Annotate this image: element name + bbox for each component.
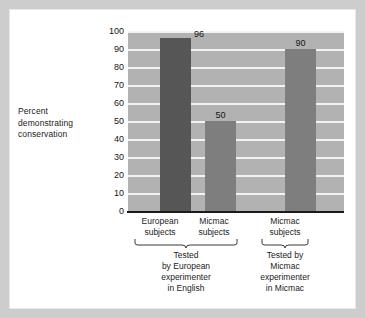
- bar-value-label-96: 96: [194, 29, 204, 39]
- category-label-line-2: subjects: [132, 227, 188, 238]
- y-tick-label-80: 80: [98, 62, 124, 72]
- figure-panel: Percent demonstrating conservation 100 9…: [10, 10, 355, 308]
- y-tick-label-50: 50: [98, 116, 124, 126]
- bar-value-label-50: 50: [215, 110, 225, 120]
- group-caption-line-2: by European: [136, 261, 236, 272]
- y-tick-label-90: 90: [98, 44, 124, 54]
- y-tick-label-10: 10: [98, 188, 124, 198]
- y-tick-label-0: 0: [98, 206, 124, 216]
- group-caption-line-4: in Micmac: [239, 283, 331, 294]
- y-tick-label-40: 40: [98, 134, 124, 144]
- category-label-line-2: subjects: [257, 227, 313, 238]
- category-label-line-1: Micmac: [257, 216, 313, 227]
- category-label-european-subjects: European subjects: [132, 216, 188, 237]
- category-label-line-2: subjects: [188, 227, 240, 238]
- group-caption-line-3: experimenter: [239, 272, 331, 283]
- group-caption-micmac-experimenter: Tested by Micmac experimenter in Micmac: [239, 250, 331, 294]
- group-caption-line-1: Tested by: [239, 250, 331, 261]
- gridline-100: [128, 31, 344, 33]
- y-tick-label-100: 100: [98, 26, 124, 36]
- bar-value-label-90: 90: [295, 38, 305, 48]
- group-caption-line-2: Micmac: [239, 261, 331, 272]
- y-tick-label-20: 20: [98, 170, 124, 180]
- category-label-micmac-subjects-english: Micmac subjects: [188, 216, 240, 237]
- bar-micmac-subjects-english: 50: [205, 121, 236, 211]
- group-brace-right: [261, 239, 309, 248]
- group-caption-line-1: Tested: [136, 250, 236, 261]
- category-label-line-1: Micmac: [188, 216, 240, 227]
- y-tick-label-70: 70: [98, 80, 124, 90]
- group-caption-line-3: experimenter: [136, 272, 236, 283]
- group-caption-line-4: in English: [136, 283, 236, 294]
- category-label-line-1: European: [132, 216, 188, 227]
- bar-micmac-subjects-micmac: 90: [285, 49, 316, 211]
- y-tick-label-30: 30: [98, 152, 124, 162]
- x-axis-line: [127, 211, 344, 213]
- y-tick-label-60: 60: [98, 98, 124, 108]
- bar-european-subjects: 96: [160, 38, 191, 211]
- group-caption-european-experimenter: Tested by European experimenter in Engli…: [136, 250, 236, 294]
- group-brace-left: [134, 239, 238, 248]
- category-label-micmac-subjects-micmac: Micmac subjects: [257, 216, 313, 237]
- plot-area: 100 90 80 70 60 50 40 30 20 10 0 96 50 9…: [128, 31, 344, 211]
